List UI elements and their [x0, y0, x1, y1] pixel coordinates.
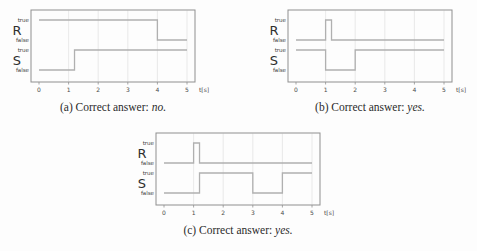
x-tick-label: 5: [310, 209, 314, 216]
signal-trace-R: [39, 20, 187, 40]
x-tick-label: 4: [412, 86, 416, 93]
figure-c-caption: (c) Correct answer:yes.: [126, 224, 341, 236]
signal-trace-R: [296, 20, 444, 40]
x-axis-label: t[s]: [324, 209, 334, 216]
x-tick-label: 2: [353, 86, 357, 93]
x-tick-label: 2: [96, 86, 100, 93]
level-label-false: false: [141, 190, 155, 196]
x-tick-label: 4: [280, 209, 284, 216]
caption-answer: yes.: [275, 224, 293, 236]
level-label-false: false: [16, 67, 30, 73]
figure-a-caption: (a) Correct answer:no.: [1, 101, 216, 113]
x-tick-label: 3: [383, 86, 387, 93]
x-tick-label: 1: [324, 86, 328, 93]
x-tick-label: 3: [251, 209, 255, 216]
x-tick-label: 1: [192, 209, 196, 216]
level-label-false: false: [273, 37, 287, 43]
x-axis-label: t[s]: [456, 86, 466, 93]
signal-trace-S: [39, 50, 187, 70]
level-label-false: false: [273, 67, 287, 73]
x-tick-label: 1: [67, 86, 71, 93]
level-label-false: false: [141, 160, 155, 166]
x-tick-label: 0: [162, 209, 166, 216]
plot-border: [288, 10, 452, 82]
level-label-false: false: [16, 37, 30, 43]
plot-border: [31, 10, 195, 82]
figure-a: 012345t[s]truefalseRtruefalseS (a) Corre…: [1, 7, 216, 113]
signal-trace-R: [164, 143, 312, 163]
signal-name-R: R: [269, 23, 278, 38]
x-tick-label: 0: [294, 86, 298, 93]
signal-name-S: S: [270, 53, 278, 68]
signal-name-R: R: [137, 146, 146, 161]
signal-plot-a: 012345t[s]truefalseRtruefalseS: [1, 7, 216, 99]
signal-plot-c: 012345t[s]truefalseRtruefalseS: [126, 130, 341, 222]
signal-name-S: S: [138, 176, 146, 191]
x-axis-label: t[s]: [199, 86, 209, 93]
signal-name-R: R: [12, 23, 21, 38]
caption-answer: no.: [152, 101, 166, 113]
signal-trace-S: [296, 50, 444, 70]
caption-text: (b) Correct answer:: [315, 101, 404, 113]
signal-plot-b: 012345t[s]truefalseRtruefalseS: [258, 7, 473, 99]
x-tick-label: 5: [442, 86, 446, 93]
caption-text: (c) Correct answer:: [183, 224, 272, 236]
x-tick-label: 5: [185, 86, 189, 93]
figure-b: 012345t[s]truefalseRtruefalseS (b) Corre…: [258, 7, 473, 113]
x-tick-label: 2: [221, 209, 225, 216]
figure-c: 012345t[s]truefalseRtruefalseS (c) Corre…: [126, 130, 341, 236]
plot-border: [156, 133, 320, 205]
x-tick-label: 4: [155, 86, 159, 93]
signal-name-S: S: [13, 53, 21, 68]
signal-trace-S: [164, 173, 312, 193]
x-tick-label: 0: [37, 86, 41, 93]
figure-page: 012345t[s]truefalseRtruefalseS (a) Corre…: [0, 0, 477, 251]
caption-answer: yes.: [407, 101, 425, 113]
figure-b-caption: (b) Correct answer:yes.: [258, 101, 473, 113]
x-tick-label: 3: [126, 86, 130, 93]
caption-text: (a) Correct answer:: [60, 101, 149, 113]
